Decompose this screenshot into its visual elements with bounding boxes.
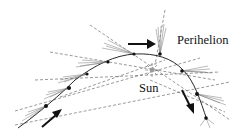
arrows bbox=[42, 39, 194, 127]
sun-label: Sun bbox=[139, 81, 159, 95]
comet-nucleus bbox=[85, 72, 88, 75]
comet-tail bbox=[156, 24, 166, 54]
comet-nucleus bbox=[195, 92, 199, 96]
sun-ray bbox=[155, 65, 157, 67]
comet-nucleus bbox=[180, 69, 184, 73]
comet-tail bbox=[58, 74, 87, 83]
orbit-path bbox=[18, 54, 207, 128]
comet-nucleus bbox=[158, 52, 162, 56]
comet-tail bbox=[76, 60, 108, 67]
dashed-line bbox=[15, 82, 230, 125]
outgoing-arrow-icon bbox=[182, 90, 194, 114]
comet-orbit-diagram: Perihelion Sun bbox=[0, 0, 243, 137]
dashed-lines bbox=[15, 10, 230, 125]
sun-icon bbox=[145, 63, 159, 77]
comet-nucleus bbox=[44, 104, 48, 108]
perihelion-label: Perihelion bbox=[177, 33, 229, 47]
perihelion-arrow-icon bbox=[128, 39, 156, 49]
comet-nucleus bbox=[67, 86, 71, 90]
dashed-line bbox=[150, 80, 225, 112]
comet-nucleus bbox=[204, 116, 208, 120]
incoming-arrow-icon bbox=[42, 109, 62, 127]
comet-nucleus bbox=[106, 60, 109, 63]
comet-nucleus bbox=[132, 52, 135, 55]
sun-body bbox=[150, 68, 155, 73]
comet-tail bbox=[182, 66, 212, 73]
dashed-line bbox=[15, 58, 200, 111]
